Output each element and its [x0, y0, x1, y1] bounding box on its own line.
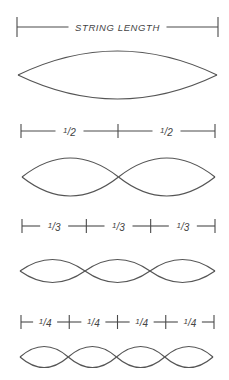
section-4-wave-lower — [165, 357, 213, 368]
section-4-segment-label: 1/4 — [87, 317, 100, 329]
section-4-wave-upper — [20, 347, 68, 358]
section-4-segment-label: 1/4 — [183, 317, 196, 329]
section-3-segment-label: 1/3 — [112, 221, 125, 233]
section-3-segment-label: 1/3 — [176, 221, 189, 233]
section-4-segment-label: 1/4 — [135, 317, 148, 329]
section-2-segment-label: 1/2 — [63, 126, 76, 138]
section-2-wave-upper — [22, 158, 119, 177]
section-4-wave-upper — [68, 347, 116, 358]
section-4-wave-lower — [117, 357, 165, 368]
section-3-wave-upper — [150, 260, 215, 272]
section-3-wave-lower — [150, 271, 215, 283]
section-3-segment-label: 1/3 — [48, 221, 61, 233]
section-4-wave-upper — [165, 347, 213, 358]
section-4-wave-lower — [20, 357, 68, 368]
section-3-wave-upper — [20, 260, 85, 272]
section-3-wave-upper — [85, 260, 150, 272]
section-3-wave-lower — [20, 271, 85, 283]
section-4-wave-upper — [117, 347, 165, 358]
section-2-segment-label: 1/2 — [160, 126, 173, 138]
section-2-wave-lower — [119, 177, 216, 196]
standing-wave-diagram: STRING LENGTH1/21/21/31/31/31/41/41/41/4 — [0, 0, 229, 380]
section-1-wave-upper — [18, 51, 217, 75]
section-4-segment-label: 1/4 — [39, 317, 52, 329]
section-3-wave-lower — [85, 271, 150, 283]
section-2-wave-lower — [22, 177, 119, 196]
section-2-wave-upper — [119, 158, 216, 177]
section-1-wave-lower — [18, 75, 217, 99]
section-4-wave-lower — [68, 357, 116, 368]
string-length-label: STRING LENGTH — [75, 22, 160, 33]
